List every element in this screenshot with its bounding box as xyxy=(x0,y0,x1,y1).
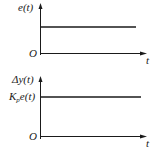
y-axis-arrow-icon xyxy=(39,76,43,82)
level-label-tail: e(t) xyxy=(20,90,35,102)
origin-label: O xyxy=(29,48,37,59)
proportional-output-plot xyxy=(39,76,148,139)
y-axis-label: e(t) xyxy=(18,2,33,13)
y-axis-label: Δy(t) xyxy=(12,74,34,85)
x-axis-label: t xyxy=(146,138,149,149)
origin-label: O xyxy=(29,131,37,142)
x-axis-label: t xyxy=(146,55,149,66)
input-signal-plot xyxy=(39,3,148,56)
level-label: Kpe(t) xyxy=(9,91,35,106)
y-axis-arrow-icon xyxy=(39,3,43,9)
